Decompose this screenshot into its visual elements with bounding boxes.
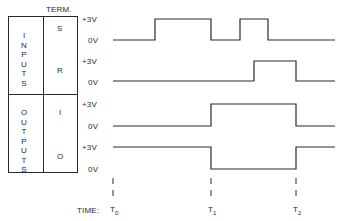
- group-label-outputs: OUTPUTS: [19, 108, 29, 175]
- level-high-s: +3V: [82, 15, 97, 24]
- level-low-r: 0V: [88, 78, 98, 87]
- t1-sub: 1: [213, 210, 217, 216]
- waveform-s: [113, 19, 335, 40]
- t2-sub: 2: [298, 210, 302, 216]
- level-high-o: +3V: [82, 143, 97, 152]
- time-label: TIME:: [77, 206, 99, 215]
- waveforms: [113, 19, 335, 169]
- terminal-i-label: I: [59, 108, 61, 117]
- time-marker-t0: T0: [110, 205, 119, 216]
- terminal-o-label: O: [57, 152, 63, 161]
- level-low-o: 0V: [88, 165, 98, 174]
- level-high-r: +3V: [82, 57, 97, 66]
- terminal-s-label: S: [57, 24, 63, 33]
- waveform-o: [113, 147, 335, 169]
- time-marker-t1: T1: [208, 205, 217, 216]
- level-high-i: +3V: [82, 100, 97, 109]
- waveform-i: [113, 104, 335, 126]
- terminal-r-label: R: [57, 66, 63, 75]
- level-low-i: 0V: [88, 122, 98, 131]
- t0-sub: 0: [115, 210, 119, 216]
- group-label-inputs: INPUTS: [19, 31, 29, 88]
- time-marker-t2: T2: [293, 205, 302, 216]
- level-low-s: 0V: [88, 36, 98, 45]
- term-header: TERM.: [46, 5, 72, 14]
- time-ticks: [113, 178, 296, 196]
- waveform-r: [113, 61, 335, 81]
- diagram-canvas: [0, 0, 343, 221]
